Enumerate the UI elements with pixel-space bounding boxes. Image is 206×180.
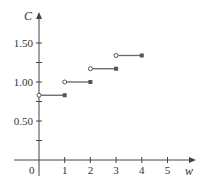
origin-label: 0 xyxy=(29,164,35,176)
x-axis-arrow-icon xyxy=(189,157,196,163)
tick-labels: 123450.501.001.50 xyxy=(14,37,171,176)
y-axis-arrow-icon xyxy=(36,12,42,19)
x-tick-label: 5 xyxy=(165,164,171,176)
open-endpoint-marker xyxy=(88,67,92,71)
y-tick-label: 0.50 xyxy=(14,115,34,127)
y-tick-label: 1.00 xyxy=(14,76,34,88)
open-endpoint-marker xyxy=(37,93,41,97)
closed-endpoint-marker xyxy=(88,80,92,84)
step-function-chart: 123450.501.001.50 C w 0 xyxy=(0,0,206,180)
open-endpoint-marker xyxy=(114,53,118,57)
step-segments xyxy=(37,53,144,97)
y-axis-label: C xyxy=(24,9,33,23)
x-tick-label: 1 xyxy=(62,164,68,176)
x-tick-label: 4 xyxy=(139,164,145,176)
y-tick-label: 1.50 xyxy=(14,37,34,49)
open-endpoint-marker xyxy=(63,80,67,84)
ticks xyxy=(36,43,168,163)
x-axis-label: w xyxy=(185,164,193,178)
x-tick-label: 3 xyxy=(113,164,119,176)
closed-endpoint-marker xyxy=(140,53,144,57)
axes xyxy=(14,12,196,176)
closed-endpoint-marker xyxy=(114,67,118,71)
x-tick-label: 2 xyxy=(88,164,94,176)
closed-endpoint-marker xyxy=(63,93,67,97)
